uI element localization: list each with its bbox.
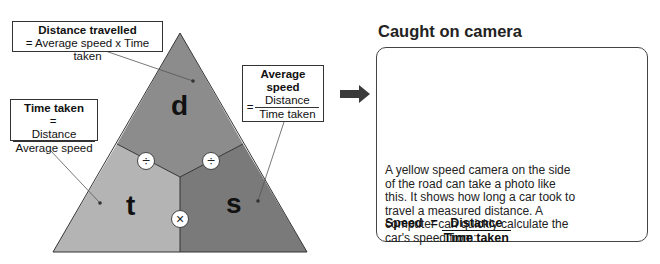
speed-label-fraction: DistanceTime taken — [255, 94, 319, 121]
speed-formula: Speed = DistanceTime taken — [385, 216, 511, 245]
camera-heading: Caught on camera — [378, 22, 522, 41]
speed-label-equals: = — [247, 101, 254, 114]
time-label-numerator: Distance — [13, 128, 94, 142]
time-label-fraction: DistanceAverage speed — [13, 128, 94, 155]
time-label-box: Time taken =DistanceAverage speed — [10, 99, 98, 141]
time-label-denominator: Average speed — [13, 142, 94, 155]
distance-label-formula: = Average speed x Time taken — [13, 37, 162, 63]
letter-time: t — [126, 190, 135, 222]
divide-icon-right: ÷ — [202, 152, 220, 170]
formula-equals: = — [431, 216, 438, 230]
speed-label-title-1: Average — [243, 68, 323, 81]
formula-lhs: Speed — [385, 216, 423, 230]
time-label-title: Time taken — [11, 102, 97, 115]
letter-distance: d — [171, 90, 188, 122]
formula-denominator: Time taken — [442, 231, 511, 245]
speed-label-box: Average speed =DistanceTime taken — [242, 65, 324, 122]
formula-fraction: DistanceTime taken — [442, 216, 511, 245]
multiply-icon: × — [171, 210, 189, 228]
distance-label-title: Distance travelled — [13, 24, 162, 37]
distance-label-box: Distance travelled = Average speed x Tim… — [12, 21, 163, 52]
speed-label-title-2: speed — [243, 81, 323, 94]
time-label-equals: = — [50, 115, 57, 128]
speed-label-denominator: Time taken — [255, 108, 319, 121]
speed-label-numerator: Distance — [255, 94, 319, 108]
formula-numerator: Distance — [442, 216, 511, 231]
divide-icon-left: ÷ — [137, 152, 155, 170]
arrow-right-icon — [340, 85, 370, 103]
letter-speed: s — [226, 188, 242, 220]
